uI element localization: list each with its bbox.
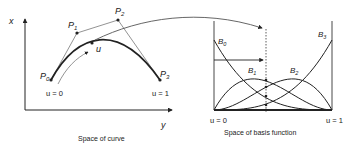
basis-value-dot xyxy=(265,79,268,82)
label-b2: B2 xyxy=(290,66,298,76)
basis-curve-b2 xyxy=(214,79,332,110)
label-u-start: u = 0 xyxy=(46,89,63,98)
label-u-end: u = 1 xyxy=(152,89,169,98)
control-point-p0 xyxy=(49,78,52,81)
label-b3: B3 xyxy=(318,30,327,40)
bezier-basis-diagram: x y P0 P1 P2 P3 u u = 0 u = 1 Space of c… xyxy=(0,0,352,149)
label-p3: P3 xyxy=(160,69,170,80)
curve-point-u xyxy=(90,41,93,44)
control-point-p1 xyxy=(75,31,78,34)
axis-x-label: x xyxy=(8,16,14,26)
basis-curve-b0 xyxy=(214,40,332,110)
basis-space-panel: B0 B1 B2 B3 u = 0 u = 1 Space of basis f… xyxy=(210,21,343,137)
basis-space-caption: Space of basis function xyxy=(224,129,296,137)
label-b0: B0 xyxy=(218,37,227,47)
basis-label-u-end: u = 1 xyxy=(326,116,343,125)
curve-space-panel: x y P0 P1 P2 P3 u u = 0 u = 1 Space of c… xyxy=(8,6,172,143)
basis-value-dot xyxy=(265,86,268,89)
basis-label-u-start: u = 0 xyxy=(210,116,227,125)
axis-y-label: y xyxy=(160,120,166,130)
param-direction-arrow xyxy=(58,52,88,84)
label-p2: P2 xyxy=(115,6,125,17)
curve-space-caption: Space of curve xyxy=(78,135,125,143)
basis-curve-b3 xyxy=(214,40,332,110)
label-b1: B1 xyxy=(248,66,256,76)
basis-value-dot xyxy=(265,109,268,112)
control-point-p2 xyxy=(116,18,119,21)
label-p1: P1 xyxy=(68,20,77,31)
basis-value-dot xyxy=(265,104,268,107)
mapping-arrow xyxy=(95,17,262,40)
basis-value-dot xyxy=(265,95,268,98)
label-u: u xyxy=(96,44,101,54)
bezier-curve xyxy=(51,40,160,80)
label-p0: P0 xyxy=(40,71,50,82)
